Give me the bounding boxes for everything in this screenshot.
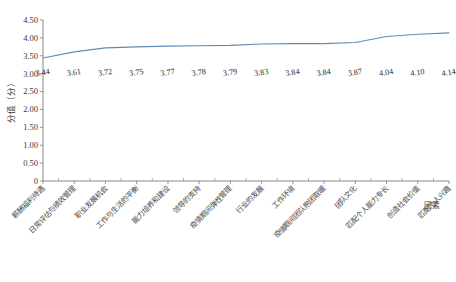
y-tick-label: 0 [34,176,38,186]
y-tick-label: 1.00 [23,140,38,150]
chart-background [0,0,456,282]
y-tick-label: 2.00 [23,104,38,114]
x-axis-title: 因素 [424,200,440,210]
y-tick-label: 0.50 [23,158,38,168]
y-tick-label: 3.50 [23,51,38,61]
chart-canvas: 00.501.001.502.002.503.003.504.004.50 3.… [0,0,456,282]
y-axis-title: 分值（分） [6,78,16,123]
y-tick-label: 4.50 [23,15,38,25]
y-tick-label: 4.00 [23,33,38,43]
y-tick-label: 2.50 [23,86,38,96]
line-chart: 00.501.001.502.002.503.003.504.004.50 3.… [0,0,456,282]
y-tick-label: 1.50 [23,122,38,132]
